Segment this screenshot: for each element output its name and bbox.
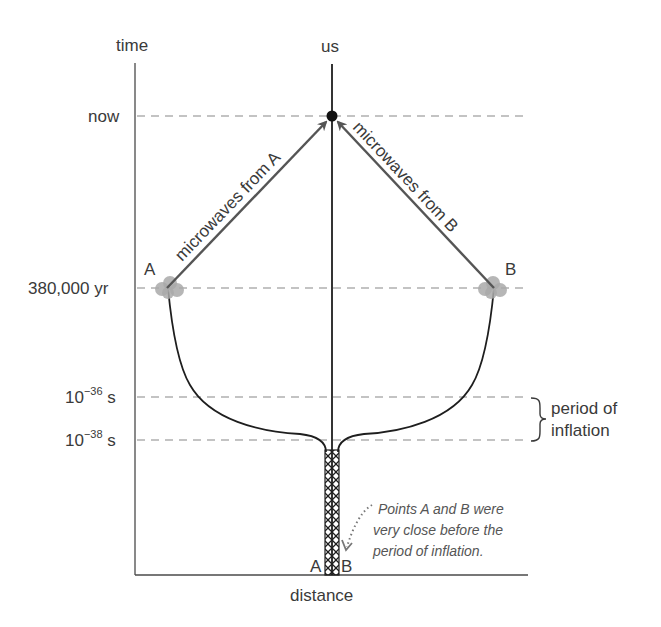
annotation-pointer — [347, 505, 372, 547]
ray-from-a — [167, 122, 326, 288]
bottom-point-a-label: A — [310, 557, 322, 576]
ray-from-b — [338, 122, 494, 288]
worldline-a — [168, 288, 326, 452]
cloud-a-icon — [155, 276, 184, 299]
point-a-label: A — [144, 260, 156, 279]
point-b-label: B — [505, 260, 516, 279]
bracket-label-line2: inflation — [551, 421, 610, 440]
inflation-bracket — [531, 398, 546, 441]
annotation-line3: period of inflation. — [372, 543, 484, 559]
bracket-label-line1: period of — [551, 399, 617, 418]
time-label-1e-36s: 10−36 s — [65, 385, 116, 407]
time-label-1e-38s: 10−38 s — [65, 428, 116, 450]
observer-now-dot — [327, 111, 338, 122]
time-label-380000yr: 380,000 yr — [28, 279, 109, 298]
time-label-now: now — [88, 107, 120, 126]
distance-axis-label: distance — [290, 586, 353, 605]
bottom-point-b-label: B — [341, 557, 352, 576]
pre-inflation-bundle — [325, 450, 339, 575]
annotation-pointer-arrowhead-icon — [342, 540, 352, 550]
worldline-b — [338, 288, 494, 452]
observer-label: us — [321, 37, 339, 56]
inflation-horizon-diagram: time distance us now 380,000 yr 10−36 s … — [0, 0, 661, 627]
annotation-line2: very close before the — [373, 522, 503, 538]
time-axis-label: time — [116, 36, 148, 55]
annotation-line1: Points A and B were — [378, 501, 504, 517]
ray-b-label: microwaves from B — [349, 118, 462, 236]
ray-a-label: microwaves from A — [171, 148, 285, 265]
